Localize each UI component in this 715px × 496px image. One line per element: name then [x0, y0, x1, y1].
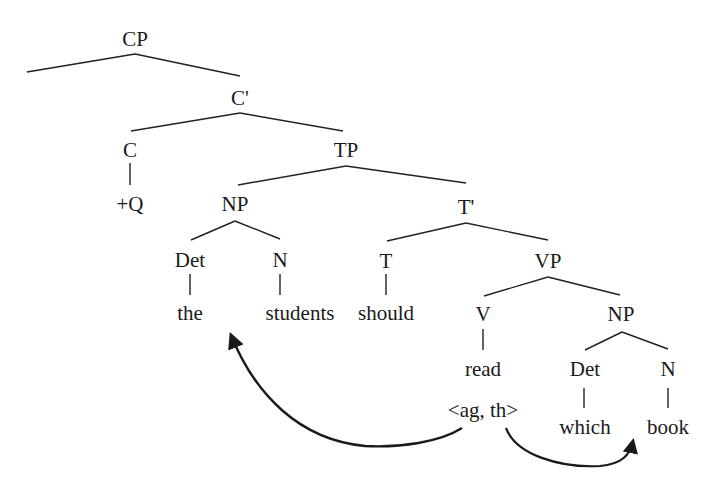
edge-cbar-tp [240, 113, 343, 131]
node-det-object: Det [570, 357, 600, 381]
edge-vp-v [484, 277, 548, 296]
edge-np-det-obj [585, 332, 622, 350]
word-students: students [266, 301, 335, 325]
edge-vp-np [548, 277, 620, 295]
node-n-subject: N [272, 248, 287, 272]
edge-np-n-obj [622, 332, 668, 349]
word-the: the [177, 301, 203, 325]
word-should: should [358, 301, 415, 325]
word-which: which [559, 415, 611, 439]
node-np-object: NP [608, 302, 635, 326]
node-c-bar: C' [231, 86, 249, 110]
syntax-tree-diagram: CP C' C +Q TP NP T' Det N T VP the stude… [0, 0, 715, 496]
tree-edges [27, 54, 668, 408]
edge-cp-spec [27, 54, 135, 72]
theta-arrows [231, 335, 633, 466]
node-cp: CP [122, 27, 148, 51]
node-c: C [123, 138, 137, 162]
edge-cp-cbar [135, 54, 240, 76]
edge-cbar-c [131, 113, 240, 131]
tree-nodes: CP C' C +Q TP NP T' Det N T VP the stude… [116, 27, 689, 439]
edge-tbar-vp [466, 223, 548, 240]
node-np-subject: NP [222, 192, 249, 216]
edge-tbar-t [387, 223, 466, 241]
node-tp: TP [334, 138, 359, 162]
node-q-feature: +Q [116, 192, 143, 216]
node-v: V [475, 302, 490, 326]
agent-arrow [231, 335, 462, 446]
node-n-object: N [660, 357, 675, 381]
theta-grid: <ag, th> [448, 398, 518, 422]
node-t: T [380, 249, 393, 273]
edge-np-n [235, 221, 280, 239]
node-t-bar: T' [458, 195, 475, 219]
node-vp: VP [535, 249, 562, 273]
edge-np-det [191, 221, 235, 240]
edge-tp-tbar [346, 166, 466, 183]
node-det-subject: Det [175, 248, 205, 272]
edge-tp-np [238, 166, 346, 185]
word-read: read [465, 357, 502, 381]
word-book: book [647, 415, 690, 439]
